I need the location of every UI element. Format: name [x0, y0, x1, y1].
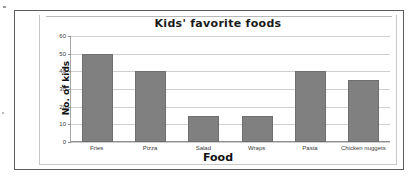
y-axis-tick-label: 10 — [59, 121, 66, 127]
bar-fries — [82, 54, 113, 142]
plot-area: 0102030405060 — [70, 36, 390, 142]
bar-chart: Kids' favorite foods No. of kids 0102030… — [39, 15, 397, 165]
bar-slot — [337, 36, 390, 142]
y-axis-tick-label: 20 — [59, 104, 66, 110]
y-axis-tick-label: 50 — [59, 51, 66, 57]
y-axis-tick-label: 30 — [59, 86, 66, 92]
document-frame: Kids' favorite foods No. of kids 0102030… — [14, 10, 404, 170]
bar-pizza — [135, 71, 166, 142]
x-axis-title: Food — [40, 151, 396, 164]
bar-salad — [188, 116, 219, 143]
scan-artifact-speck — [3, 6, 6, 8]
bar-pasta — [295, 71, 326, 142]
bar-slot — [231, 36, 284, 142]
bar-wraps — [242, 116, 273, 143]
y-axis-tick-label: 60 — [59, 33, 66, 39]
bar-slot — [284, 36, 337, 142]
y-axis-tick-label: 0 — [63, 139, 66, 145]
plot-area-wrapper: 0102030405060 — [70, 36, 390, 142]
bar-slot — [124, 36, 177, 142]
chart-title: Kids' favorite foods — [40, 17, 396, 30]
y-axis-tick — [68, 142, 71, 143]
scan-artifact-speck — [2, 112, 4, 114]
y-axis-tick-label: 40 — [59, 68, 66, 74]
gridline — [71, 142, 390, 143]
bar-series — [71, 36, 390, 142]
bar-slot — [177, 36, 230, 142]
bar-chicken-nuggets — [348, 80, 379, 142]
bar-slot — [71, 36, 124, 142]
